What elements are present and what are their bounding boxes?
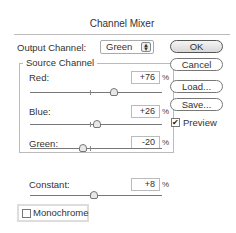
monochrome-checkbox[interactable]: [22, 209, 31, 218]
load-button[interactable]: Load...: [170, 80, 223, 93]
constant-slider-thumb[interactable]: [90, 191, 98, 199]
blue-slider-center-tick: [90, 122, 91, 127]
constant-label: Constant:: [29, 179, 70, 190]
output-channel-value: Green: [106, 41, 132, 52]
blue-label: Blue:: [29, 106, 51, 117]
preview-label: Preview: [183, 117, 217, 128]
constant-value-input[interactable]: +8: [131, 178, 160, 191]
green-percent: %: [162, 138, 169, 147]
blue-percent: %: [162, 107, 169, 116]
output-channel-select[interactable]: Green ▲▼: [100, 40, 154, 54]
red-slider-track[interactable]: [30, 92, 162, 93]
green-slider-center-tick: [90, 146, 91, 151]
preview-checkbox[interactable]: ✔: [171, 118, 180, 127]
red-slider-thumb[interactable]: [110, 88, 118, 96]
red-percent: %: [162, 73, 169, 82]
red-label: Red:: [29, 72, 49, 83]
red-slider-center-tick: [90, 90, 91, 95]
channel-mixer-dialog: Channel Mixer Output Channel: Green ▲▼ S…: [14, 8, 236, 233]
green-slider-thumb[interactable]: [79, 144, 87, 152]
constant-percent: %: [162, 180, 169, 189]
output-channel-label: Output Channel:: [17, 42, 86, 53]
title-divider: [14, 34, 230, 35]
red-value-input[interactable]: +76: [131, 71, 160, 84]
dialog-title: Channel Mixer: [14, 18, 230, 29]
ok-button[interactable]: OK: [170, 40, 223, 53]
select-arrows-icon: ▲▼: [141, 42, 151, 52]
cancel-button[interactable]: Cancel: [170, 58, 223, 71]
source-channel-title: Source Channel: [23, 57, 97, 68]
monochrome-label: Monochrome: [33, 207, 88, 218]
blue-slider-thumb[interactable]: [93, 120, 101, 128]
green-slider-track[interactable]: [30, 148, 162, 149]
save-button[interactable]: Save...: [170, 98, 223, 111]
blue-value-input[interactable]: +26: [131, 105, 160, 118]
